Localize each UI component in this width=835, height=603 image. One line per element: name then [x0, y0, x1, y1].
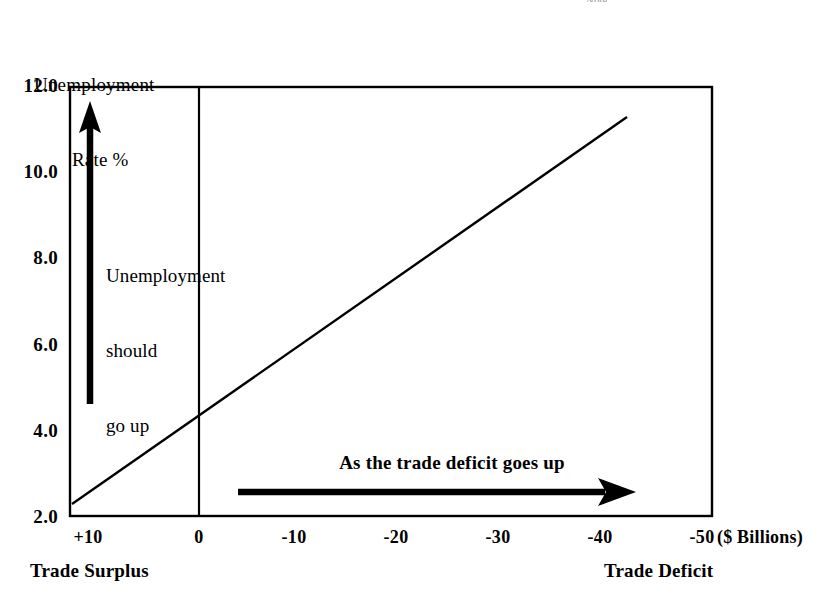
- annotation-line-2: should: [106, 338, 225, 363]
- annotation-trade-deficit-up: As the trade deficit goes up: [339, 452, 565, 474]
- y-tick-label: 8.0: [0, 247, 58, 269]
- annotation-unemployment-up: Unemployment should go up: [106, 213, 225, 488]
- annotation-line-3: go up: [106, 413, 225, 438]
- y-axis-title: Unemployment Rate %: [34, 22, 155, 222]
- x-tick-minus50: -50: [690, 527, 715, 548]
- y-tick-label: 2.0: [0, 506, 58, 528]
- x-axis-units-label: ($ Billions): [717, 527, 803, 548]
- annotation-line-1: Unemployment: [106, 263, 225, 288]
- y-tick-label: 4.0: [0, 420, 58, 442]
- caption-trade-surplus: Trade Surplus: [30, 560, 149, 582]
- trade-deficit-right-arrow-icon: [238, 478, 636, 506]
- x-tick-minus10: -10: [282, 527, 307, 548]
- x-tick-plus10: +10: [73, 527, 102, 548]
- x-tick-minus30: -30: [486, 527, 511, 548]
- y-tick-label: 12.0: [0, 75, 58, 97]
- caption-trade-deficit: Trade Deficit: [604, 560, 713, 582]
- cropped-title-remnant: Note: [586, 0, 607, 2]
- x-tick-0: 0: [194, 527, 203, 548]
- x-tick-minus40: -40: [588, 527, 613, 548]
- x-tick-minus20: -20: [384, 527, 409, 548]
- chart-figure: Note Unemployment Rate % 12.0 10.0 8.0 6…: [0, 0, 835, 603]
- y-tick-label: 6.0: [0, 334, 58, 356]
- y-tick-label: 10.0: [0, 161, 58, 183]
